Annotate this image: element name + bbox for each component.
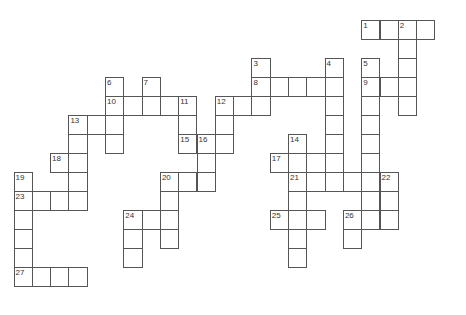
crossword-cell[interactable] xyxy=(306,210,325,230)
crossword-cell[interactable] xyxy=(325,115,344,135)
crossword-cell[interactable]: 9 xyxy=(361,77,380,97)
clue-number: 1 xyxy=(363,21,367,30)
crossword-cell[interactable] xyxy=(32,267,51,287)
crossword-cell[interactable] xyxy=(306,77,325,97)
crossword-cell[interactable] xyxy=(325,96,344,116)
crossword-cell[interactable]: 3 xyxy=(251,58,270,78)
crossword-cell[interactable] xyxy=(288,248,307,268)
crossword-cell[interactable] xyxy=(270,77,289,97)
crossword-cell[interactable]: 27 xyxy=(14,267,33,287)
crossword-cell[interactable]: 19 xyxy=(14,172,33,192)
crossword-cell[interactable]: 11 xyxy=(178,96,197,116)
crossword-cell[interactable] xyxy=(251,96,270,116)
crossword-cell[interactable] xyxy=(398,39,417,59)
crossword-cell[interactable]: 12 xyxy=(215,96,234,116)
clue-number: 26 xyxy=(345,211,354,220)
crossword-cell[interactable]: 22 xyxy=(380,172,399,192)
crossword-cell[interactable] xyxy=(160,210,179,230)
crossword-cell[interactable] xyxy=(380,77,399,97)
crossword-cell[interactable] xyxy=(306,153,325,173)
crossword-cell[interactable]: 15 xyxy=(178,134,197,154)
crossword-cell[interactable]: 25 xyxy=(270,210,289,230)
crossword-cell[interactable] xyxy=(361,172,380,192)
crossword-cell[interactable] xyxy=(361,134,380,154)
crossword-cell[interactable]: 16 xyxy=(197,134,216,154)
crossword-cell[interactable] xyxy=(160,229,179,249)
crossword-cell[interactable] xyxy=(416,20,435,40)
crossword-cell[interactable] xyxy=(68,191,87,211)
crossword-cell[interactable] xyxy=(68,172,87,192)
clue-number: 4 xyxy=(327,59,331,68)
crossword-cell[interactable] xyxy=(14,248,33,268)
crossword-cell[interactable] xyxy=(288,191,307,211)
crossword-cell[interactable] xyxy=(343,229,362,249)
crossword-cell[interactable] xyxy=(123,96,142,116)
crossword-cell[interactable] xyxy=(343,172,362,192)
crossword-cell[interactable]: 4 xyxy=(325,58,344,78)
crossword-cell[interactable]: 7 xyxy=(142,77,161,97)
crossword-cell[interactable] xyxy=(398,77,417,97)
crossword-cell[interactable]: 23 xyxy=(14,191,33,211)
crossword-cell[interactable] xyxy=(197,172,216,192)
crossword-cell[interactable]: 13 xyxy=(68,115,87,135)
crossword-cell[interactable]: 10 xyxy=(105,96,124,116)
crossword-cell[interactable] xyxy=(215,134,234,154)
clue-number: 18 xyxy=(52,154,61,163)
crossword-cell[interactable] xyxy=(325,134,344,154)
crossword-cell[interactable]: 5 xyxy=(361,58,380,78)
crossword-cell[interactable] xyxy=(50,267,69,287)
crossword-cell[interactable] xyxy=(68,153,87,173)
crossword-cell[interactable] xyxy=(123,229,142,249)
crossword-cell[interactable] xyxy=(178,115,197,135)
crossword-cell[interactable] xyxy=(398,96,417,116)
crossword-cell[interactable] xyxy=(142,96,161,116)
crossword-cell[interactable] xyxy=(325,77,344,97)
crossword-cell[interactable] xyxy=(14,210,33,230)
crossword-cell[interactable] xyxy=(233,96,252,116)
crossword-cell[interactable] xyxy=(288,153,307,173)
crossword-cell[interactable] xyxy=(288,77,307,97)
crossword-cell[interactable]: 6 xyxy=(105,77,124,97)
crossword-cell[interactable]: 26 xyxy=(343,210,362,230)
crossword-cell[interactable]: 24 xyxy=(123,210,142,230)
crossword-cell[interactable] xyxy=(105,115,124,135)
crossword-cell[interactable]: 14 xyxy=(288,134,307,154)
crossword-cell[interactable] xyxy=(361,115,380,135)
crossword-cell[interactable] xyxy=(123,248,142,268)
crossword-cell[interactable] xyxy=(380,191,399,211)
crossword-cell[interactable] xyxy=(160,191,179,211)
crossword-cell[interactable]: 21 xyxy=(288,172,307,192)
crossword-cell[interactable] xyxy=(288,210,307,230)
crossword-cell[interactable] xyxy=(361,191,380,211)
crossword-cell[interactable]: 1 xyxy=(361,20,380,40)
crossword-cell[interactable]: 8 xyxy=(251,77,270,97)
crossword-cell[interactable] xyxy=(87,115,106,135)
crossword-cell[interactable] xyxy=(380,20,399,40)
crossword-cell[interactable] xyxy=(105,134,124,154)
crossword-cell[interactable]: 17 xyxy=(270,153,289,173)
crossword-cell[interactable] xyxy=(288,229,307,249)
crossword-cell[interactable] xyxy=(325,172,344,192)
crossword-cell[interactable] xyxy=(68,267,87,287)
clue-number: 11 xyxy=(180,97,188,106)
crossword-cell[interactable] xyxy=(160,96,179,116)
crossword-cell[interactable] xyxy=(380,210,399,230)
crossword-cell[interactable] xyxy=(178,172,197,192)
crossword-cell[interactable] xyxy=(361,153,380,173)
crossword-cell[interactable] xyxy=(197,153,216,173)
crossword-cell[interactable]: 18 xyxy=(50,153,69,173)
crossword-cell[interactable] xyxy=(215,115,234,135)
crossword-cell[interactable] xyxy=(306,172,325,192)
crossword-cell[interactable] xyxy=(32,191,51,211)
crossword-cell[interactable] xyxy=(361,210,380,230)
crossword-cell[interactable] xyxy=(68,134,87,154)
crossword-cell[interactable] xyxy=(398,58,417,78)
crossword-cell[interactable]: 20 xyxy=(160,172,179,192)
crossword-cell[interactable]: 2 xyxy=(398,20,417,40)
clue-number: 23 xyxy=(16,192,25,201)
crossword-cell[interactable] xyxy=(14,229,33,249)
crossword-cell[interactable] xyxy=(142,210,161,230)
crossword-cell[interactable] xyxy=(325,153,344,173)
crossword-cell[interactable] xyxy=(361,96,380,116)
crossword-cell[interactable] xyxy=(50,191,69,211)
